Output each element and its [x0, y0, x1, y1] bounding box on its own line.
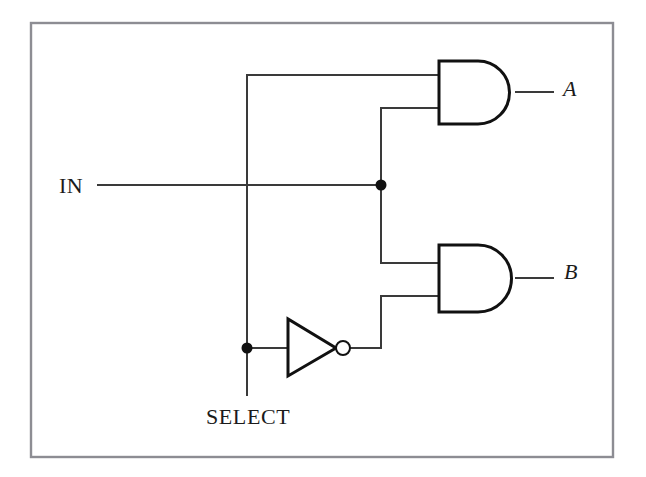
- label-input-in: IN: [59, 173, 83, 199]
- and-gate-bottom[interactable]: [439, 245, 512, 312]
- circuit-schematic: [0, 0, 646, 477]
- junction-dot-select: [242, 343, 253, 354]
- and-gate-top[interactable]: [439, 61, 510, 124]
- label-input-select: SELECT: [206, 404, 290, 430]
- inverter-bubble-icon: [336, 341, 350, 355]
- inverter-gate[interactable]: [288, 319, 336, 376]
- figure-root: IN SELECT A B: [0, 0, 646, 477]
- junction-dot-in: [376, 180, 387, 191]
- figure-border: [31, 23, 613, 457]
- label-output-b: B: [564, 259, 577, 285]
- label-output-a: A: [563, 76, 576, 102]
- wire-nselect-to-and-bottom: [350, 296, 438, 348]
